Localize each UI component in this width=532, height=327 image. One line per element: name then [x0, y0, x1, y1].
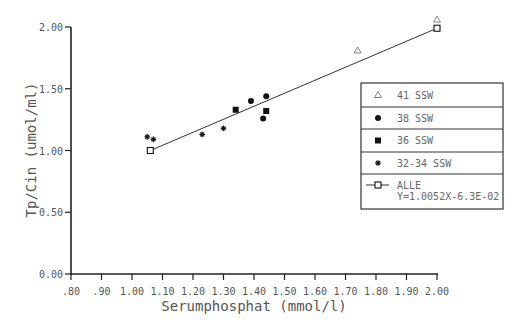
triangle-marker-icon — [434, 16, 441, 22]
x-axis-ticks: .80.901.001.101.201.301.401.501.601.701.… — [62, 274, 449, 297]
star-marker-icon — [375, 160, 381, 166]
star-marker-icon — [151, 137, 157, 143]
x-tick-label: 1.30 — [211, 286, 235, 297]
open-square-marker-icon — [434, 25, 440, 31]
y-axis-ticks: 0.000.501.001.502.00 — [39, 22, 71, 280]
x-tick-label: 1.50 — [272, 286, 296, 297]
x-tick-label: 1.00 — [120, 286, 144, 297]
x-tick-label: 1.40 — [242, 286, 266, 297]
legend-equation: Y=1.0052X-6.3E-02 — [397, 191, 499, 202]
triangle-marker-icon — [354, 47, 361, 53]
legend-label: ALLE — [397, 180, 421, 191]
circle-marker-icon — [260, 115, 266, 121]
square-marker-icon — [263, 108, 269, 114]
circle-marker-icon — [248, 98, 254, 104]
y-tick-label: 1.50 — [39, 84, 63, 95]
circle-marker-icon — [263, 93, 269, 99]
square-marker-icon — [375, 138, 381, 144]
y-tick-label: 0.00 — [39, 269, 63, 280]
x-tick-label: 1.20 — [181, 286, 205, 297]
y-tick-label: 2.00 — [39, 22, 63, 33]
y-tick-label: 1.00 — [39, 146, 63, 157]
star-marker-icon — [144, 134, 150, 140]
x-tick-label: .90 — [92, 286, 110, 297]
x-tick-label: 2.00 — [425, 286, 449, 297]
x-tick-label: .80 — [62, 286, 80, 297]
y-tick-label: 0.50 — [39, 207, 63, 218]
star-marker-icon — [221, 125, 227, 131]
legend-label: 32-34 SSW — [397, 158, 452, 169]
x-tick-label: 1.80 — [364, 286, 388, 297]
open-square-marker-icon — [147, 148, 153, 154]
x-tick-label: 1.10 — [150, 286, 174, 297]
legend: 41 SSW38 SSW36 SSW32-34 SSWALLEY=1.0052X… — [361, 83, 503, 209]
x-axis-title: Serumphosphat (mmol/l) — [161, 298, 346, 314]
y-axis-title: Tp/Cin (umol/ml) — [23, 83, 39, 218]
scatter-chart: .80.901.001.101.201.301.401.501.601.701.… — [0, 0, 532, 327]
open-square-marker-icon — [375, 182, 381, 188]
legend-label: 38 SSW — [397, 113, 434, 124]
square-marker-icon — [233, 107, 239, 113]
legend-label: 41 SSW — [397, 90, 434, 101]
x-tick-label: 1.70 — [333, 286, 357, 297]
circle-marker-icon — [375, 115, 381, 121]
legend-label: 36 SSW — [397, 135, 434, 146]
x-tick-label: 1.90 — [394, 286, 418, 297]
star-marker-icon — [199, 132, 205, 138]
x-tick-label: 1.60 — [303, 286, 327, 297]
